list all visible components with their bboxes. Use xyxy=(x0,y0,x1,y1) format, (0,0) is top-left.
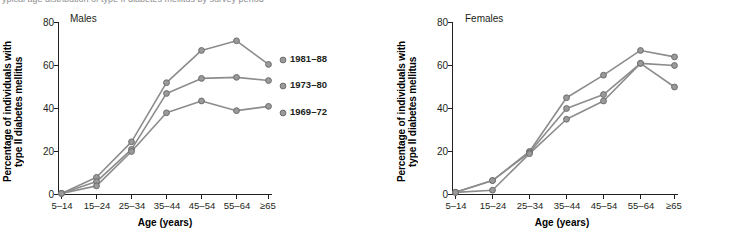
x-tick-15-24-males: 15–24 xyxy=(78,200,116,211)
legend-marker-3 xyxy=(280,110,286,116)
x-tickmarks-females xyxy=(456,195,675,200)
data-point xyxy=(490,178,496,184)
series-males xyxy=(59,38,272,196)
data-point xyxy=(638,48,644,54)
axis-lines-males xyxy=(59,22,273,195)
x-tick-65plus-females: ≥65 xyxy=(658,200,690,211)
legend-item-1981-88[interactable]: 1981–88 xyxy=(290,53,327,64)
figure: ypical age distribution of type II diabe… xyxy=(0,0,736,238)
data-point xyxy=(94,183,100,189)
data-point xyxy=(199,98,205,104)
series-line-1981-88 xyxy=(62,41,269,194)
data-point xyxy=(164,80,170,86)
data-point xyxy=(527,151,533,157)
data-point xyxy=(164,110,170,116)
data-point xyxy=(490,187,496,193)
x-tick-25-34-females: 25–34 xyxy=(511,200,549,211)
x-axis-label-females: Age (years) xyxy=(492,217,632,228)
series-line-1973-80 xyxy=(456,63,675,192)
data-point xyxy=(129,139,135,145)
data-point xyxy=(234,38,240,44)
data-point xyxy=(601,98,607,104)
panel-females: Percentage of individuals withtype II di… xyxy=(368,0,736,238)
legend-item-1973-80[interactable]: 1973–80 xyxy=(290,79,327,90)
data-point xyxy=(453,189,459,195)
data-point xyxy=(672,63,678,69)
x-tick-35-44-females: 35–44 xyxy=(548,200,586,211)
x-tick-55-64-males: 55–64 xyxy=(218,200,256,211)
data-point xyxy=(266,78,272,84)
x-tick-65plus-males: ≥65 xyxy=(252,200,284,211)
data-point xyxy=(266,103,272,109)
data-point xyxy=(199,76,205,82)
data-point xyxy=(234,108,240,114)
x-axis-label-males: Age (years) xyxy=(95,217,235,228)
data-point xyxy=(601,92,607,98)
data-point xyxy=(564,116,570,122)
legend-item-1969-72[interactable]: 1969–72 xyxy=(290,106,327,117)
x-tick-45-54-males: 45–54 xyxy=(183,200,221,211)
data-point xyxy=(672,84,678,90)
data-point xyxy=(564,95,570,101)
data-point xyxy=(199,48,205,54)
legend-marker-1 xyxy=(280,57,286,63)
legend-markers xyxy=(280,57,286,116)
data-point xyxy=(601,72,607,78)
data-point xyxy=(266,62,272,68)
x-tick-25-34-males: 25–34 xyxy=(113,200,151,211)
panel-males: Percentage of individuals withtype II di… xyxy=(0,0,368,238)
data-point xyxy=(672,54,678,60)
x-tick-5-14-males: 5–14 xyxy=(43,200,81,211)
x-tick-55-64-females: 55–64 xyxy=(622,200,660,211)
series-line-1969-72 xyxy=(456,63,675,192)
x-tickmarks-males xyxy=(62,195,269,200)
x-tick-45-54-females: 45–54 xyxy=(585,200,623,211)
x-tick-5-14-females: 5–14 xyxy=(437,200,475,211)
legend-marker-2 xyxy=(280,83,286,89)
data-point xyxy=(234,74,240,80)
x-tick-15-24-females: 15–24 xyxy=(474,200,512,211)
data-point xyxy=(129,149,135,155)
series-females xyxy=(453,48,678,196)
data-point xyxy=(164,91,170,97)
data-point xyxy=(59,191,65,197)
data-point xyxy=(564,106,570,112)
data-point xyxy=(638,60,644,66)
x-tick-35-44-males: 35–44 xyxy=(148,200,186,211)
